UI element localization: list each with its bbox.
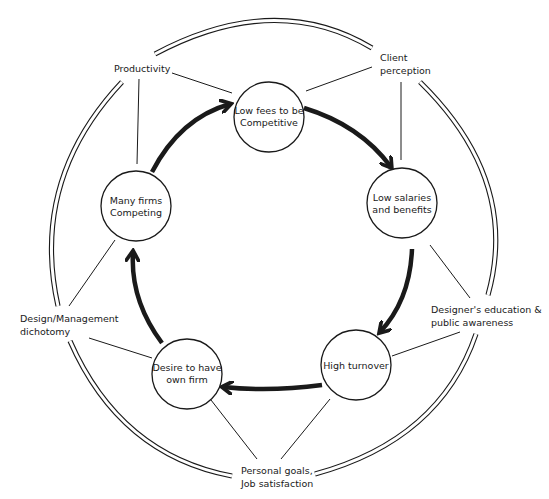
factor-productivity: Productivity xyxy=(114,63,171,74)
factor-label-line2: perception xyxy=(380,65,431,76)
factor-designers-education: Designer's education & public awareness xyxy=(431,304,542,328)
factor-label-line1: Design/Management xyxy=(20,313,119,324)
connector-education-lowsalaries xyxy=(430,245,470,298)
factor-label-line1: Personal goals, xyxy=(241,465,313,476)
node-label-line1: Low fees to be xyxy=(234,105,303,116)
arrow-manyfirms-to-lowfees xyxy=(152,104,230,172)
node-low-salaries: Low salaries and benefits xyxy=(367,168,437,238)
factor-label-line1: Productivity xyxy=(114,63,171,74)
node-label-line2: and benefits xyxy=(372,204,431,215)
node-low-fees: Low fees to be Competitive xyxy=(234,82,304,152)
factor-client-perception: Client perception xyxy=(380,52,431,76)
factor-label-line1: Designer's education & xyxy=(431,304,542,315)
node-label-line1: Many firms xyxy=(110,195,163,206)
arrow-highturnover-to-desire xyxy=(223,385,322,389)
node-label-line1: Low salaries xyxy=(373,192,431,203)
factor-label-line2: public awareness xyxy=(431,317,513,328)
factor-label-line1: Client xyxy=(380,52,408,63)
outer-arc-top xyxy=(155,20,372,54)
connector-personal-highturnover xyxy=(281,399,330,459)
connector-personal-desire xyxy=(211,400,257,459)
cycle-diagram: Low fees to be Competitive Low salaries … xyxy=(0,0,549,499)
node-label-line2: Competing xyxy=(110,207,162,218)
node-desire-own-firm: Desire to have own firm xyxy=(152,339,222,409)
node-label-line2: own firm xyxy=(166,374,208,385)
arrow-desire-to-manyfirms xyxy=(133,252,162,343)
factor-label-line2: dichotomy xyxy=(20,326,71,337)
factor-label-line2: Job satisfaction xyxy=(240,478,313,489)
connector-design-desire xyxy=(89,338,152,358)
node-label-line1: High turnover xyxy=(323,360,389,371)
factor-design-management: Design/Management dichotomy xyxy=(20,313,119,337)
connector-client-lowfees xyxy=(306,67,372,91)
arrow-lowfees-to-lowsalaries xyxy=(304,108,391,167)
node-label-line2: Competitive xyxy=(240,117,298,128)
node-high-turnover: High turnover xyxy=(321,330,391,400)
node-many-firms: Many firms Competing xyxy=(101,171,171,241)
connector-education-highturnover xyxy=(392,332,460,356)
connector-design-manyfirms xyxy=(69,240,115,306)
arrow-lowsalaries-to-highturnover xyxy=(380,249,412,332)
connector-productivity-lowfees xyxy=(172,73,232,93)
connector-productivity-manyfirms xyxy=(137,79,139,164)
node-label-line1: Desire to have xyxy=(152,362,221,373)
factor-personal-goals: Personal goals, Job satisfaction xyxy=(240,465,313,489)
